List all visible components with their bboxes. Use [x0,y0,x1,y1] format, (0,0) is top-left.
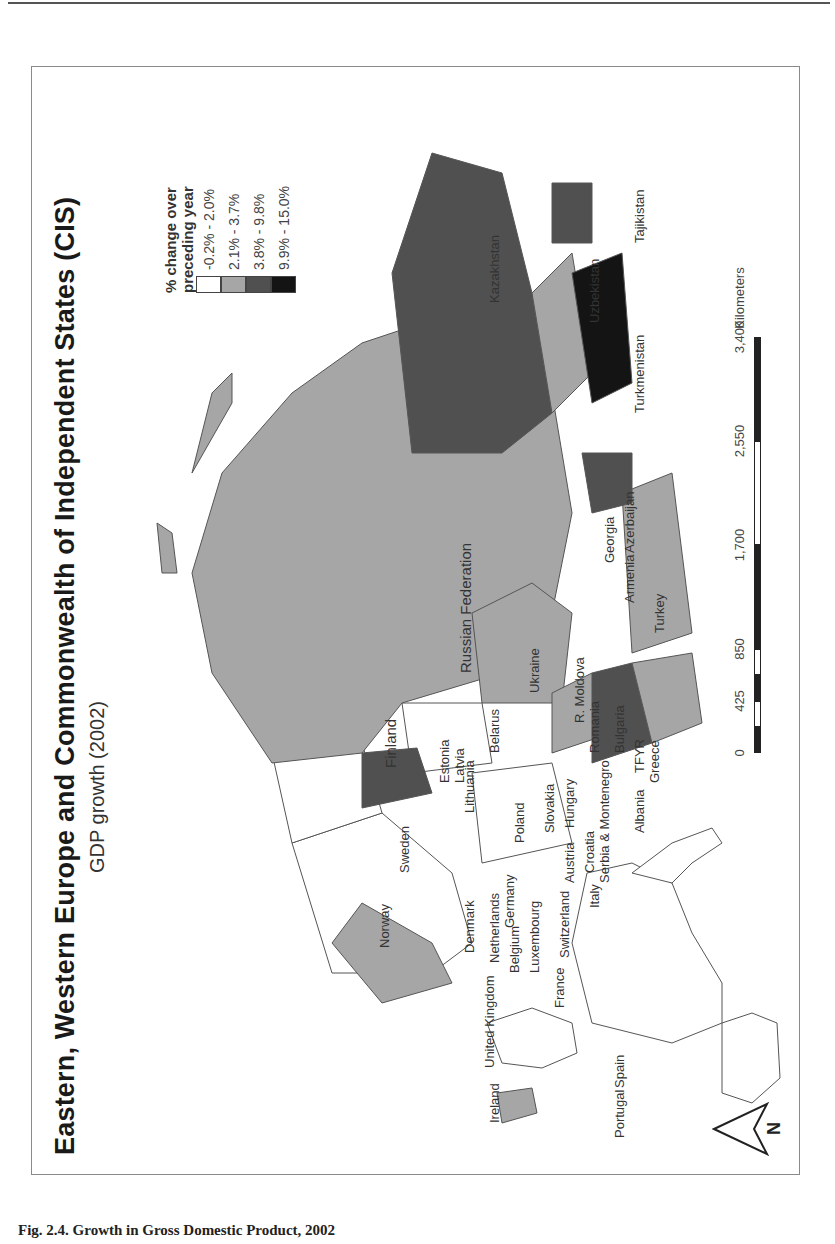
label-switzerland: Switzerland [557,891,572,958]
label-azerbaijan: Azerbaijan [622,492,637,553]
scale-tick: 425 [732,690,747,712]
label-greece: Greece [647,740,662,783]
legend-label: 9.9% - 15.0% [276,186,292,270]
legend: % change over preceding year -0.2% - 2.0… [162,153,296,293]
label-ireland: Ireland [487,1083,502,1123]
legend-title-line2: preceding year [179,153,196,293]
label-romania: Romania [587,701,602,753]
label-turkey: Turkey [652,594,667,633]
label-armenia: Armenia [622,555,637,603]
region-italy [632,828,722,883]
label-portugal: Portugal [612,1090,627,1138]
legend-label: 3.8% - 9.8% [251,194,267,270]
scale-unit: Kilometers [732,267,747,328]
legend-label: 2.1% - 3.7% [226,194,242,270]
label-france: France [552,968,567,1008]
scale-tick: 2,550 [732,425,747,458]
legend-swatch-dark-grey [246,276,271,293]
north-label: N [764,1122,785,1135]
label-tajikistan: Tajikistan [632,190,647,243]
label-sweden: Sweden [397,826,412,873]
label-luxembourg: Luxembourg [527,901,542,973]
region-kazakhstan [392,153,552,453]
label-spain: Spain [612,1055,627,1088]
region-ireland [497,1088,537,1123]
map-canvas: Eastern, Western Europe and Commonwealth… [32,67,798,1173]
label-slovakia: Slovakia [542,784,557,833]
label-macedonia: TFYR [632,739,647,773]
label-croatia: Croatia [582,831,597,873]
label-italy: Italy [587,884,602,908]
label-belgium: Belgium [507,926,522,973]
label-norway: Norway [377,904,392,948]
label-hungary: Hungary [562,779,577,828]
legend-swatch-white [196,276,221,293]
legend-swatch-black [271,276,296,293]
label-austria: Austria [562,843,577,883]
label-turkmenistan: Turkmenistan [632,335,647,413]
label-uk: United Kingdom [482,976,497,1069]
label-estonia: Estonia [437,740,452,783]
label-kazakhstan: Kazakhstan [487,235,502,303]
label-germany: Germany [502,875,517,928]
choropleth-map [32,67,798,1173]
legend-row: -0.2% - 2.0% [196,153,221,293]
label-georgia: Georgia [602,517,617,563]
scale-tick: 0 [732,749,747,756]
label-denmark: Denmark [462,900,477,953]
label-netherlands: Netherlands [487,893,502,963]
label-lithuania: Lithuania [462,760,477,813]
label-uzbekistan: Uzbekistan [587,259,602,323]
scale-tick: 850 [732,638,747,660]
scale-bar: 0 425 850 1,700 2,550 3,400 Kilometers [732,293,772,753]
legend-row: 2.1% - 3.7% [221,153,246,293]
legend-row: 3.8% - 9.8% [246,153,271,293]
legend-label: -0.2% - 2.0% [201,189,217,270]
region-spain-portugal [722,1013,780,1103]
label-ukraine: Ukraine [527,648,542,693]
region-uk [487,1008,577,1068]
label-poland: Poland [512,803,527,843]
legend-row: 9.9% - 15.0% [271,153,296,293]
figure-caption: Fig. 2.4. Growth in Gross Domestic Produ… [18,1222,335,1239]
region-tajikistan [552,183,592,243]
north-arrow: N [712,1099,786,1159]
legend-title-line1: % change over [162,153,179,293]
scale-tick: 1,700 [732,529,747,562]
label-finland: Finland [382,719,399,768]
label-bulgaria: Bulgaria [612,705,627,753]
label-russia: Russian Federation [457,543,474,673]
page-top-rule [8,2,830,4]
label-moldova: R. Moldova [572,657,587,723]
label-serbia: Serbia & Montenegro [597,760,612,883]
label-belarus: Belarus [487,709,502,753]
label-albania: Albania [632,790,647,833]
legend-swatch-light-grey [221,276,246,293]
